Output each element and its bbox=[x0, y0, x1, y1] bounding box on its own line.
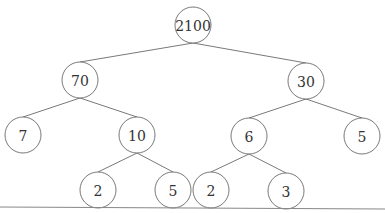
node-label: 2100 bbox=[175, 18, 211, 34]
tree-node: 6 bbox=[231, 118, 267, 154]
tree-edge bbox=[98, 153, 137, 172]
tree-edge bbox=[211, 154, 249, 172]
node-label: 30 bbox=[297, 74, 315, 90]
tree-node: 7 bbox=[5, 117, 41, 153]
tree-node: 10 bbox=[119, 117, 155, 153]
baseline-divider bbox=[0, 207, 385, 209]
tree-edge bbox=[80, 98, 137, 117]
tree-node: 30 bbox=[288, 63, 324, 99]
tree-node: 70 bbox=[62, 62, 98, 98]
tree-edge bbox=[249, 99, 306, 118]
node-label: 5 bbox=[358, 129, 367, 145]
tree-edge bbox=[249, 154, 286, 173]
tree-node: 5 bbox=[344, 118, 380, 154]
tree-node: 2 bbox=[193, 172, 229, 208]
tree-edge bbox=[193, 43, 306, 63]
tree-node: 2 bbox=[80, 172, 116, 208]
node-label: 2 bbox=[207, 183, 216, 199]
tree-node: 5 bbox=[155, 172, 191, 208]
node-label: 7 bbox=[19, 128, 28, 144]
tree-edge bbox=[306, 99, 362, 118]
node-label: 5 bbox=[169, 183, 178, 199]
tree-edge bbox=[137, 153, 173, 172]
node-label: 2 bbox=[94, 183, 103, 199]
tree-nodes: 21007030710652523 bbox=[5, 7, 380, 209]
tree-edges bbox=[23, 43, 362, 173]
tree-edge bbox=[23, 98, 80, 117]
tree-node: 3 bbox=[268, 173, 304, 209]
tree-node: 2100 bbox=[175, 7, 211, 43]
node-label: 70 bbox=[71, 73, 89, 89]
tree-edge bbox=[80, 43, 193, 62]
node-label: 6 bbox=[245, 129, 254, 145]
node-label: 10 bbox=[128, 128, 146, 144]
factor-tree-diagram: 21007030710652523 bbox=[0, 0, 385, 213]
node-label: 3 bbox=[282, 184, 291, 200]
